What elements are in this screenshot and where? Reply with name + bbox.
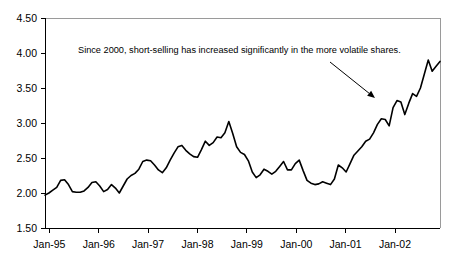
y-tick-label: 1.50 [17, 222, 38, 234]
y-tick-label: 4.00 [17, 47, 38, 59]
y-tick-label: 2.00 [17, 187, 38, 199]
y-tick-label: 2.50 [17, 152, 38, 164]
chart-container: 4.50 4.00 3.50 3.00 2.50 2.00 1.50 Jan-9… [0, 0, 462, 264]
x-tick-label: Jan-98 [181, 238, 213, 250]
x-tick-label: Jan-96 [83, 238, 115, 250]
x-tick-label: Jan-97 [132, 238, 164, 250]
x-tick-label: Jan-02 [379, 238, 411, 250]
chart-background [0, 0, 462, 264]
x-tick-label: Jan-99 [231, 238, 263, 250]
y-tick-label: 4.50 [17, 12, 38, 24]
x-tick-label: Jan-00 [280, 238, 312, 250]
x-tick-label: Jan-01 [330, 238, 362, 250]
line-chart: 4.50 4.00 3.50 3.00 2.50 2.00 1.50 Jan-9… [0, 0, 462, 264]
x-tick-label: Jan-95 [33, 238, 65, 250]
annotation-text: Since 2000, short-selling has increased … [78, 45, 401, 55]
y-tick-label: 3.00 [17, 117, 38, 129]
y-tick-label: 3.50 [17, 82, 38, 94]
